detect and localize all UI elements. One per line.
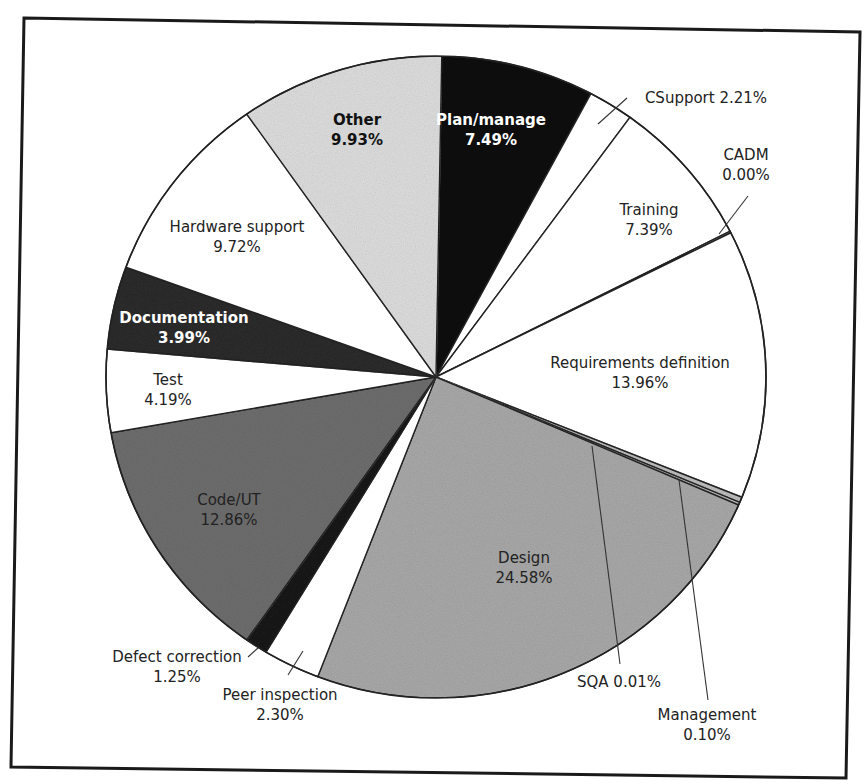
label-csupport: CSupport 2.21% <box>645 89 767 107</box>
label-sqa: SQA 0.01% <box>577 673 661 691</box>
pie-chart: Plan/manage7.49%CSupport 2.21%CADM0.00%T… <box>0 0 864 784</box>
chart-frame: Plan/manage7.49%CSupport 2.21%CADM0.00%T… <box>0 0 864 784</box>
